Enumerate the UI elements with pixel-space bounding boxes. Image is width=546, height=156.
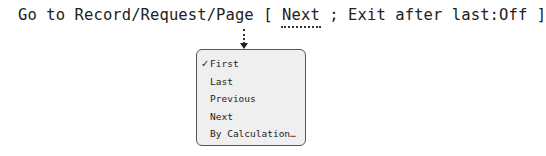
step-name: Go to Record/Request/Page [ bbox=[18, 6, 282, 24]
exit-after-last-value[interactable]: Off bbox=[499, 6, 527, 24]
menu-item-label: By Calculation… bbox=[210, 128, 296, 139]
menu-item-last[interactable]: Last bbox=[197, 73, 305, 91]
menu-item-label: Previous bbox=[210, 93, 256, 104]
closing-bracket: ] bbox=[527, 6, 546, 24]
exit-after-last-label: ; Exit after last: bbox=[320, 6, 499, 24]
menu-item-first[interactable]: ✓ First bbox=[197, 55, 305, 73]
dotted-underline bbox=[281, 26, 321, 28]
checkmark-icon: ✓ bbox=[201, 55, 209, 73]
menu-item-label: Next bbox=[210, 111, 233, 122]
record-option-parameter[interactable]: Next bbox=[282, 4, 320, 26]
menu-item-next[interactable]: Next bbox=[197, 108, 305, 126]
script-step-line: Go to Record/Request/Page [ Next ; Exit … bbox=[18, 4, 546, 26]
dotted-connector-line bbox=[243, 29, 245, 44]
record-option-popup-menu: ✓ First Last Previous Next By Calculatio… bbox=[196, 49, 306, 146]
menu-item-label: First bbox=[210, 58, 239, 69]
menu-item-by-calculation[interactable]: By Calculation… bbox=[197, 125, 305, 143]
record-option-value: Next bbox=[282, 6, 320, 24]
menu-item-previous[interactable]: Previous bbox=[197, 90, 305, 108]
menu-item-label: Last bbox=[210, 76, 233, 87]
